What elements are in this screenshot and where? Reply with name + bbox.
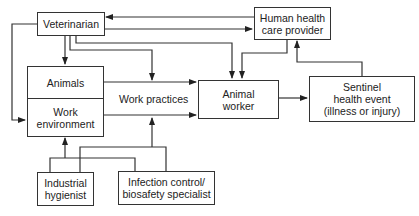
node-sentinel-health-event: Sentinel health event (illness or injury… [309,76,415,122]
node-animals: Animals [27,66,104,99]
node-label: Animals [47,77,84,89]
node-label-line2: worker [223,100,255,112]
edge-bracket-workenv [50,158,135,172]
node-label-line2: biosafety specialist [122,188,210,200]
edge-sentinel-to-hhcp [297,41,362,76]
node-veterinarian: Veterinarian [37,12,105,36]
node-infection-control-specialist: Infection control/ biosafety specialist [118,171,215,205]
node-label-line1: Industrial [44,177,87,189]
node-label-line1: Human health [260,12,325,24]
node-label: Veterinarian [43,18,99,30]
node-label-line3: (illness or injury) [324,105,400,117]
node-human-health-care-provider: Human health care provider [254,7,331,40]
node-label-line2: care provider [262,24,323,36]
edge-hhcp-to-animalworker [242,39,287,78]
label-work-practices: Work practices [119,93,188,105]
node-label-line2: health event [333,93,390,105]
edge-bracket-workpractices [80,147,166,172]
node-label-line2: hygienist [45,189,86,201]
node-label-line2: environment [37,118,95,130]
node-label-line1: Animal [222,88,254,100]
node-label-line1: Infection control/ [128,176,205,188]
node-label-line1: Sentinel [343,81,381,93]
node-industrial-hygienist: Industrial hygienist [37,172,94,206]
node-label-line1: Work [53,106,77,118]
node-animal-worker: Animal worker [198,80,279,119]
node-work-environment: Work environment [27,98,104,137]
